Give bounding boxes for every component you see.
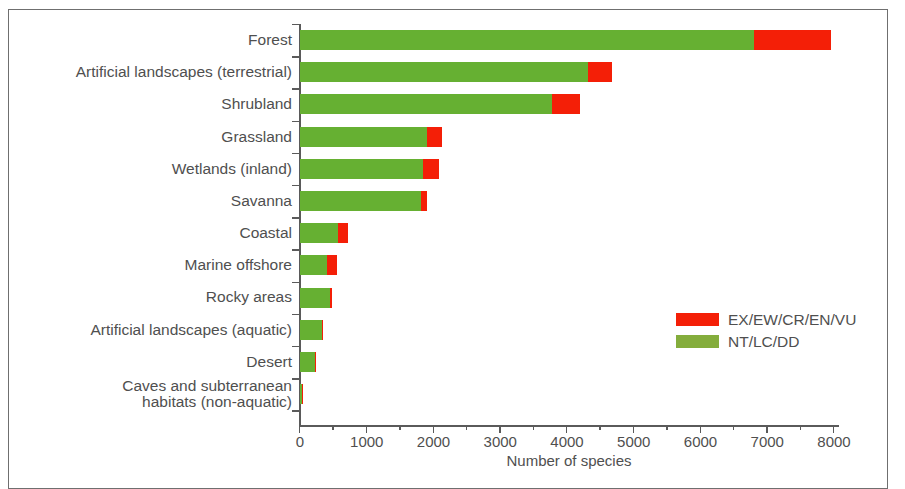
bar-segment-non-threatened bbox=[300, 255, 327, 275]
bar-segment-threatened bbox=[315, 352, 316, 372]
x-axis-title: Number of species bbox=[299, 452, 839, 469]
category-label-coastal: Coastal bbox=[10, 217, 292, 249]
y-tick-7 bbox=[292, 249, 300, 250]
x-tick-2500 bbox=[466, 426, 467, 430]
category-label-artificial-aquatic: Artificial landscapes (aquatic) bbox=[10, 314, 292, 346]
x-tick-label-8000: 8000 bbox=[817, 433, 850, 450]
y-tick-3 bbox=[292, 121, 300, 122]
x-tick-5000 bbox=[633, 426, 634, 433]
bar-segment-threatened bbox=[302, 384, 303, 404]
bar-segment-non-threatened bbox=[300, 352, 315, 372]
x-tick-label-2000: 2000 bbox=[417, 433, 450, 450]
bar-segment-threatened bbox=[338, 223, 348, 243]
y-tick-8 bbox=[292, 282, 300, 283]
y-tick-10 bbox=[292, 346, 300, 347]
y-tick-11 bbox=[292, 378, 300, 379]
x-tick-0 bbox=[299, 426, 300, 433]
bar-segment-threatened bbox=[754, 30, 831, 50]
y-tick-0 bbox=[292, 24, 300, 25]
bar-segment-threatened bbox=[552, 94, 580, 114]
category-label-savanna: Savanna bbox=[10, 185, 292, 217]
bar-segment-non-threatened bbox=[300, 320, 322, 340]
category-label-caves-subterranean: Caves and subterranean habitats (non-aqu… bbox=[10, 378, 292, 410]
x-tick-5500 bbox=[666, 426, 667, 430]
x-tick-4500 bbox=[599, 426, 600, 430]
category-axis-labels: Forest Artificial landscapes (terrestria… bbox=[10, 24, 292, 410]
x-tick-label-3000: 3000 bbox=[484, 433, 517, 450]
bar-segment-threatened bbox=[330, 288, 332, 308]
legend-label-threatened: EX/EW/CR/EN/VU bbox=[728, 311, 856, 329]
x-tick-8000 bbox=[833, 426, 834, 433]
y-tick-1 bbox=[292, 56, 300, 57]
bar-segment-non-threatened bbox=[300, 191, 421, 211]
bar-segment-threatened bbox=[322, 320, 323, 340]
category-label-shrubland: Shrubland bbox=[10, 88, 292, 120]
legend-item-threatened: EX/EW/CR/EN/VU bbox=[676, 310, 856, 329]
bar-segment-non-threatened bbox=[300, 30, 754, 50]
legend-red-swatch-icon bbox=[676, 313, 719, 326]
x-tick-label-4000: 4000 bbox=[550, 433, 583, 450]
category-label-wetlands-inland: Wetlands (inland) bbox=[10, 153, 292, 185]
category-label-rocky-areas: Rocky areas bbox=[10, 282, 292, 314]
category-label-desert: Desert bbox=[10, 346, 292, 378]
category-label-forest: Forest bbox=[10, 24, 292, 56]
bar-segment-threatened bbox=[423, 159, 439, 179]
category-label-artificial-terrestrial: Artificial landscapes (terrestrial) bbox=[10, 56, 292, 88]
x-tick-6000 bbox=[700, 426, 701, 433]
y-tick-2 bbox=[292, 88, 300, 89]
x-tick-2000 bbox=[433, 426, 434, 433]
legend-green-swatch-icon bbox=[676, 335, 719, 348]
x-tick-label-0: 0 bbox=[296, 433, 304, 450]
bar-segment-threatened bbox=[421, 191, 428, 211]
y-tick-5 bbox=[292, 185, 300, 186]
x-axis-line bbox=[299, 425, 839, 427]
x-tick-7500 bbox=[800, 426, 801, 430]
y-tick-9 bbox=[292, 314, 300, 315]
x-tick-3000 bbox=[499, 426, 500, 433]
x-tick-4000 bbox=[566, 426, 567, 433]
legend-label-non-threatened: NT/LC/DD bbox=[728, 333, 799, 351]
x-tick-label-7000: 7000 bbox=[751, 433, 784, 450]
x-tick-1500 bbox=[399, 426, 400, 430]
x-tick-3500 bbox=[533, 426, 534, 430]
bar-segment-threatened bbox=[327, 255, 337, 275]
x-tick-label-6000: 6000 bbox=[684, 433, 717, 450]
bar-segment-non-threatened bbox=[300, 62, 588, 82]
bar-segment-non-threatened bbox=[300, 288, 330, 308]
legend: EX/EW/CR/EN/VU NT/LC/DD bbox=[676, 310, 856, 354]
bar-segment-non-threatened bbox=[300, 223, 338, 243]
x-tick-6500 bbox=[733, 426, 734, 430]
x-tick-1000 bbox=[366, 426, 367, 433]
y-tick-12 bbox=[292, 410, 300, 411]
x-tick-500 bbox=[332, 426, 333, 430]
x-tick-label-5000: 5000 bbox=[617, 433, 650, 450]
y-tick-4 bbox=[292, 153, 300, 154]
bar-segment-threatened bbox=[588, 62, 612, 82]
y-tick-6 bbox=[292, 217, 300, 218]
bar-segment-non-threatened bbox=[300, 159, 423, 179]
bar-segment-non-threatened bbox=[300, 94, 552, 114]
x-tick-label-1000: 1000 bbox=[350, 433, 383, 450]
bar-segment-threatened bbox=[427, 127, 442, 147]
x-tick-7000 bbox=[766, 426, 767, 433]
bar-segment-non-threatened bbox=[300, 127, 427, 147]
category-label-grassland: Grassland bbox=[10, 121, 292, 153]
category-label-marine-offshore: Marine offshore bbox=[10, 249, 292, 281]
legend-item-non-threatened: NT/LC/DD bbox=[676, 332, 856, 351]
